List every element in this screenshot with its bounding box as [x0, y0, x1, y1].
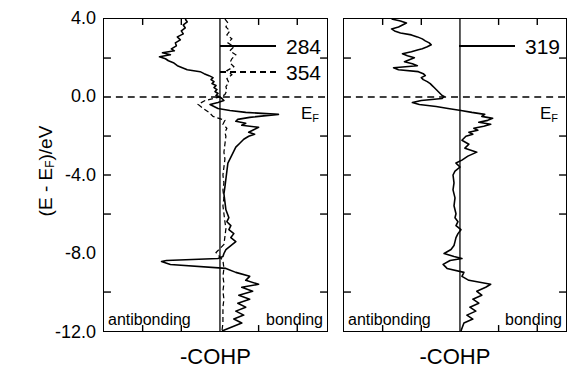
y-tick-label-0: 0.0: [38, 87, 96, 105]
legend-label-319: 319: [525, 36, 560, 57]
x-axis-caption-right: -COHP: [343, 344, 567, 370]
legend-item-354: 354: [220, 59, 321, 85]
x-axis-caption-left: -COHP: [103, 344, 328, 370]
y-tick-label-minus-12: -12.0: [38, 323, 96, 341]
legend-line-dashed-354: [220, 71, 276, 73]
fermi-label-left: EF: [301, 105, 319, 127]
legend-line-solid-319: [459, 45, 515, 47]
bonding-label-right: bonding: [505, 311, 562, 329]
series-curve-319: [392, 19, 493, 331]
antibonding-label-left: antibonding: [108, 311, 191, 329]
legend-label-354: 354: [286, 62, 321, 83]
legend-label-284: 284: [286, 36, 321, 57]
axis-ticks: [344, 19, 566, 331]
bonding-label-left: bonding: [266, 311, 323, 329]
antibonding-label-right: antibonding: [348, 311, 431, 329]
legend-line-solid-284: [220, 45, 276, 47]
cohp-panel-left: EF antibonding bonding 284 354: [103, 18, 328, 332]
fermi-label-right: EF: [540, 105, 558, 127]
fermi-label-right-text: E: [540, 104, 551, 123]
cohp-figure: (E - EF)/eV 4.0 0.0 -4.0 -8.0 -12.0: [0, 0, 584, 383]
fermi-label-right-sub: F: [551, 112, 558, 124]
y-tick-label-4: 4.0: [38, 9, 96, 27]
fermi-label-left-sub: F: [312, 112, 319, 124]
cohp-panel-right: EF antibonding bonding 319: [343, 18, 567, 332]
y-tick-label-minus-4: -4.0: [38, 166, 96, 184]
y-axis-title-suffix: )/eV: [35, 126, 56, 161]
y-tick-label-minus-8: -8.0: [38, 244, 96, 262]
legend-left: 284 354: [220, 33, 321, 85]
fermi-label-left-text: E: [301, 104, 312, 123]
legend-right: 319: [459, 33, 560, 59]
legend-item-284: 284: [220, 33, 321, 59]
panel-right-plot: [344, 19, 566, 331]
legend-item-319: 319: [459, 33, 560, 59]
